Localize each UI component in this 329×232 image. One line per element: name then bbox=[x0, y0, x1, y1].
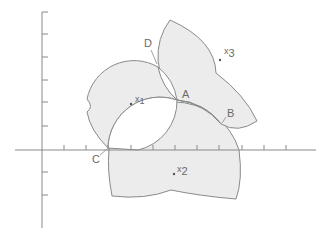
label-B: B bbox=[227, 107, 234, 119]
label-A: A bbox=[182, 88, 190, 100]
x-ticks bbox=[64, 145, 286, 150]
label-C: C bbox=[92, 153, 100, 165]
point-x2-dot bbox=[173, 173, 175, 175]
label-x3: x3 bbox=[224, 46, 235, 59]
y-ticks bbox=[42, 12, 48, 195]
diagram-canvas: x1 x2 x3 A B C D bbox=[0, 0, 329, 232]
point-x1-dot bbox=[130, 103, 132, 105]
label-D: D bbox=[144, 37, 152, 49]
point-x3-dot bbox=[219, 59, 221, 61]
